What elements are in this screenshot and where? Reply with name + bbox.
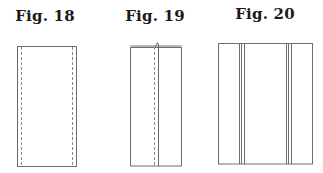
fig-18-fabric-rect: [18, 47, 77, 167]
fig-20-fabric-rect: [219, 44, 313, 165]
fig-19-diagram: [131, 43, 182, 167]
fig-20-diagram: [219, 44, 313, 165]
figures-canvas: [0, 0, 323, 173]
fig-19-fabric-rect: [131, 48, 182, 167]
fig-18-diagram: [18, 47, 77, 167]
